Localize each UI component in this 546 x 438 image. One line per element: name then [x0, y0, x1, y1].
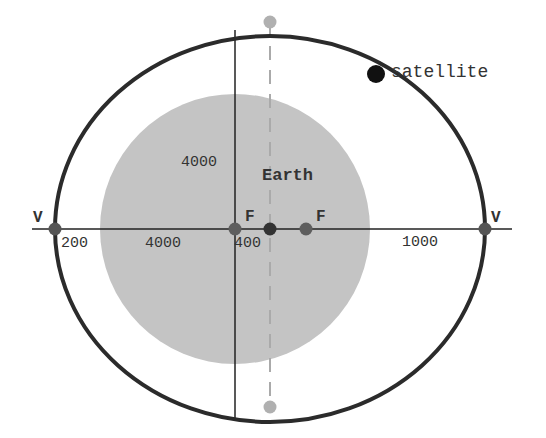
satellite-label: satellite: [391, 62, 488, 82]
vertex-left-dot: [49, 223, 62, 236]
orbit-diagram: satellite Earth V V F F 200 4000 4000 40…: [0, 0, 546, 438]
earth-label: Earth: [262, 166, 313, 185]
dimension-right-gap: 1000: [402, 234, 438, 251]
focus-right-dot: [300, 223, 313, 236]
dimension-focus-to-center: 400: [234, 235, 261, 252]
minor-vertex-top-dot: [264, 16, 277, 29]
focus-left-label: F: [245, 208, 255, 226]
minor-vertex-bottom-dot: [264, 401, 277, 414]
dimension-earth-radius-horizontal: 4000: [145, 235, 181, 252]
vertex-left-label: V: [33, 209, 43, 227]
satellite-dot: [367, 65, 385, 83]
vertex-right-label: V: [491, 209, 501, 227]
focus-left-dot: [229, 223, 242, 236]
vertex-right-dot: [479, 223, 492, 236]
focus-right-label: F: [316, 208, 326, 226]
dimension-left-gap: 200: [61, 235, 88, 252]
ellipse-center-dot: [264, 223, 277, 236]
dimension-earth-radius-vertical: 4000: [181, 154, 217, 171]
